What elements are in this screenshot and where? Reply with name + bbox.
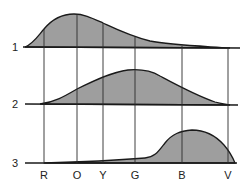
band-label-g: G bbox=[131, 169, 140, 181]
row-label-3: 3 bbox=[12, 157, 18, 169]
band-label-r: R bbox=[40, 169, 48, 181]
band-label-v: V bbox=[224, 169, 232, 181]
band-label-y: Y bbox=[99, 169, 107, 181]
row-label-1: 1 bbox=[12, 41, 18, 53]
band-label-o: O bbox=[73, 169, 82, 181]
curve-1-area bbox=[25, 14, 230, 48]
curve-3-area bbox=[44, 130, 235, 163]
band-label-b: B bbox=[178, 169, 185, 181]
row-label-2: 2 bbox=[12, 98, 18, 110]
baseline-2 bbox=[25, 104, 238, 105]
baseline-1 bbox=[23, 47, 240, 48]
spectral-curves-diagram: 1 2 3 R O Y G B V bbox=[0, 0, 252, 190]
